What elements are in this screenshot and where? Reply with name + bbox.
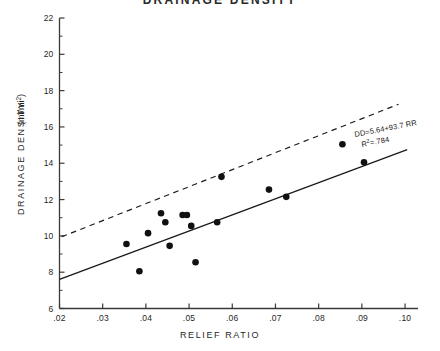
chart-figure: DRAINAGE DENSITY 6810121416182022 .02.03… [0, 0, 440, 351]
y-tick-label-16: 16 [44, 122, 54, 132]
x-tick-label-.08: .08 [312, 313, 324, 323]
data-point [166, 243, 173, 250]
data-point [218, 174, 225, 181]
data-point [158, 210, 165, 217]
y-tick-label-14: 14 [44, 158, 54, 168]
data-point [214, 219, 221, 226]
data-point [266, 186, 273, 193]
data-point [192, 259, 199, 266]
y-axis-tick-labels: 6810121416182022 [44, 13, 54, 314]
data-point [136, 268, 143, 275]
x-axis-major-ticks [60, 304, 406, 309]
data-point [283, 194, 290, 201]
x-tick-label-.07: .07 [269, 313, 281, 323]
x-tick-label-.09: .09 [356, 313, 368, 323]
y-tick-label-12: 12 [44, 195, 54, 205]
y-tick-label-22: 22 [44, 13, 54, 23]
x-tick-label-.06: .06 [226, 313, 238, 323]
data-point [162, 219, 169, 226]
x-axis-title: RELIEF RATIO [180, 330, 260, 340]
data-point [123, 241, 130, 248]
regression-equation-annotation: DD=5.64+93.7 RR R2=.784 [354, 118, 418, 149]
x-tick-label-.03: .03 [96, 313, 108, 323]
y-axis-units: (mi/mi2) [15, 94, 26, 125]
y-tick-label-8: 8 [49, 267, 54, 277]
y-tick-label-18: 18 [44, 86, 54, 96]
x-axis-tick-labels: .02.03.04.05.06.07.08.09.10 [53, 313, 411, 323]
r-squared-value: =.784 [369, 135, 390, 148]
data-point [184, 212, 191, 219]
data-point [145, 230, 152, 237]
y-tick-label-10: 10 [44, 231, 54, 241]
x-tick-label-.04: .04 [140, 313, 152, 323]
x-tick-label-.05: .05 [183, 313, 195, 323]
scatter-plot: 6810121416182022 .02.03.04.05.06.07.08.0… [0, 0, 440, 351]
x-tick-label-.02: .02 [53, 313, 65, 323]
data-point [339, 141, 346, 148]
data-point-group [123, 141, 367, 275]
data-point [361, 159, 368, 166]
y-axis-major-ticks [60, 18, 65, 309]
x-tick-label-.10: .10 [399, 313, 411, 323]
data-point [188, 223, 195, 230]
reference-line-dashed [62, 104, 399, 237]
y-tick-label-20: 20 [44, 49, 54, 59]
